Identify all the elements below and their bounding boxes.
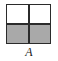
quadrant-bottom-right: [29, 24, 51, 43]
quadrant-square: [6, 4, 51, 44]
figure-label: A: [0, 45, 58, 59]
figure-container: A: [0, 0, 58, 61]
quadrant-bottom-left: [7, 24, 29, 43]
quadrant-top-left: [7, 5, 29, 24]
quadrant-top-right: [29, 5, 51, 24]
